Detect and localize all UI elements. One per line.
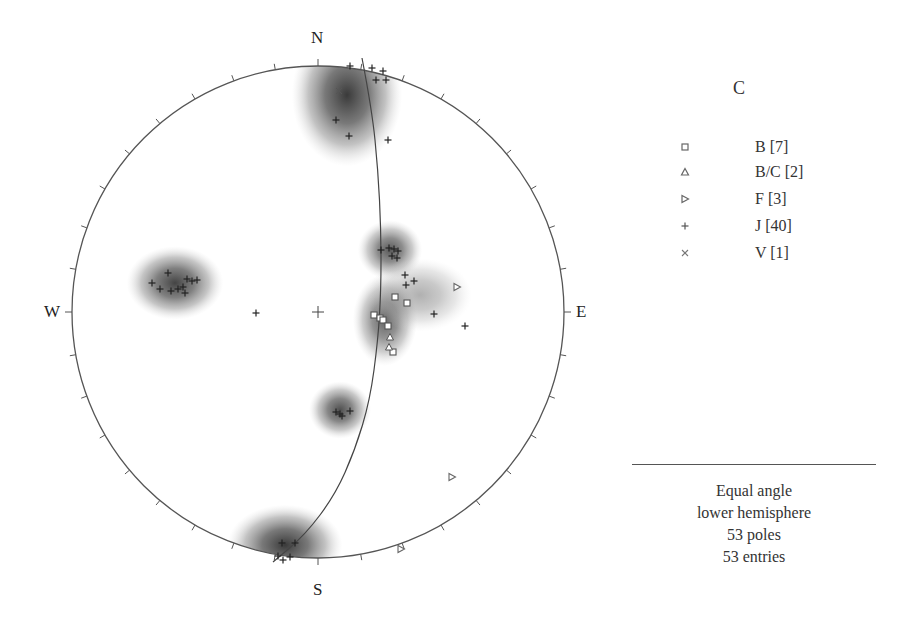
x-icon: [678, 246, 692, 260]
pole-f: [449, 474, 456, 481]
density-blob: [228, 505, 343, 586]
tick-mark: [156, 500, 160, 505]
pole-b: [371, 312, 377, 318]
plot-info: Equal angle lower hemisphere 53 poles 53…: [632, 480, 876, 568]
legend-label: B/C [2]: [755, 163, 803, 181]
pole-b: [404, 300, 410, 306]
tick-mark: [476, 119, 480, 124]
tick-mark: [549, 396, 555, 398]
tick-mark: [441, 94, 444, 99]
density-blob: [292, 24, 402, 167]
tick-mark: [274, 64, 275, 70]
tick-mark: [70, 268, 76, 269]
poles-count: 53 poles: [632, 524, 876, 546]
pole-j: [369, 65, 376, 72]
legend-item-bc: B/C [2]: [670, 163, 890, 185]
tick-mark: [506, 150, 511, 154]
hemisphere: lower hemisphere: [632, 502, 876, 524]
density-blob: [309, 381, 371, 439]
tick-mark: [531, 435, 536, 438]
tick-mark: [441, 525, 444, 530]
projection-type: Equal angle: [632, 480, 876, 502]
legend-item-f: F [3]: [670, 190, 890, 212]
tick-mark: [232, 543, 234, 549]
tick-mark: [506, 470, 511, 474]
legend-title: C: [733, 78, 745, 99]
tick-mark: [156, 119, 160, 124]
square-icon: [678, 140, 692, 154]
tick-mark: [192, 525, 195, 530]
tick-mark: [100, 435, 105, 438]
tick-mark: [560, 268, 566, 269]
legend-label: J [40]: [755, 217, 792, 235]
south-label: S: [313, 580, 322, 600]
triangle-right-icon: [678, 192, 692, 206]
legend-item-v: V [1]: [670, 244, 890, 266]
tick-mark: [232, 75, 234, 81]
tick-mark: [125, 470, 130, 474]
density-contours: [127, 24, 472, 586]
legend-item-j: J [40]: [670, 217, 890, 239]
tick-mark: [70, 355, 76, 356]
tick-mark: [81, 396, 87, 398]
pole-b: [392, 294, 398, 300]
legend-label: B [7]: [755, 138, 788, 156]
pole-b: [380, 317, 386, 323]
tick-mark: [560, 355, 566, 356]
tick-mark: [192, 94, 195, 99]
north-label: N: [311, 28, 323, 48]
info-divider: [632, 464, 876, 465]
tick-mark: [125, 150, 130, 154]
plus-icon: [678, 219, 692, 233]
pole-j: [280, 557, 287, 564]
tick-mark: [81, 226, 87, 228]
tick-mark: [402, 75, 404, 81]
west-label: W: [44, 302, 60, 322]
pole-j: [253, 310, 260, 317]
density-blob: [127, 246, 224, 320]
legend-label: V [1]: [755, 244, 789, 262]
tick-mark: [361, 64, 362, 70]
center-cross: [312, 306, 324, 318]
east-label: E: [576, 302, 586, 322]
tick-mark: [476, 500, 480, 505]
pole-b: [385, 323, 391, 329]
tick-mark: [531, 186, 536, 189]
entries-count: 53 entries: [632, 546, 876, 568]
legend-label: F [3]: [755, 190, 787, 208]
tick-mark: [549, 226, 555, 228]
tick-mark: [274, 554, 275, 560]
pole-j: [462, 323, 469, 330]
tick-mark: [361, 554, 362, 560]
triangle-up-icon: [678, 165, 692, 179]
tick-mark: [100, 186, 105, 189]
legend-item-b: B [7]: [670, 138, 890, 160]
